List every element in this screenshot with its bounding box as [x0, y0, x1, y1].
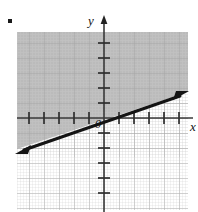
graph-canvas	[0, 0, 198, 212]
origin-label: 0	[95, 118, 101, 130]
y-axis-label: y	[88, 14, 94, 27]
coordinate-graph: y x 0	[0, 0, 198, 212]
figure-screenshot: y x 0	[0, 0, 198, 212]
x-axis-label: x	[190, 120, 196, 133]
